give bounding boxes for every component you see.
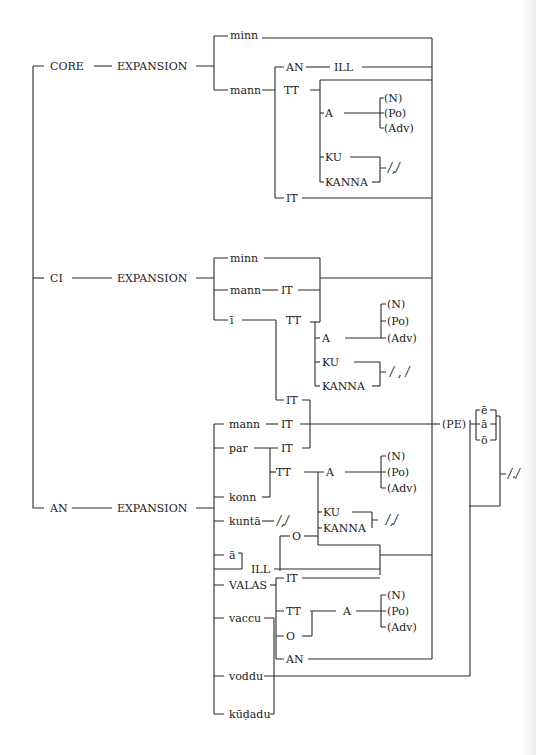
an-expansion-label: EXPANSION (117, 502, 188, 515)
an-konn: konn (229, 491, 256, 504)
root-spine (33, 66, 44, 508)
final-e: ē (481, 404, 488, 417)
syntax-tree-diagram: CORE EXPANSION minn mann AN ILL TT A (N)… (0, 0, 536, 755)
an-n2: (N) (387, 589, 405, 602)
an-comma2: /,/ (385, 513, 400, 527)
ci-adv: (Adv) (387, 332, 417, 345)
an-tt2: TT (286, 605, 302, 618)
an-tt: TT (276, 466, 292, 479)
an-ill: ILL (251, 563, 271, 576)
core-po: (Po) (384, 107, 406, 120)
core-it: IT (286, 192, 298, 205)
core-comma: /,/ (387, 161, 402, 175)
an-a: A (325, 466, 335, 479)
an-section: AN EXPANSION mann IT par IT TT A (N) (Po… (49, 400, 470, 721)
ci-a: A (321, 332, 331, 345)
page-edge-shadow (522, 0, 536, 755)
core-expansion-label: EXPANSION (117, 60, 188, 73)
an-ku: KU (323, 506, 340, 519)
an-adv: (Adv) (387, 482, 417, 495)
an-po2: (Po) (387, 605, 409, 618)
an-it2: IT (281, 442, 293, 455)
core-tt: TT (284, 84, 300, 97)
ci-tt: TT (286, 314, 302, 327)
ci-po: (Po) (387, 315, 409, 328)
an-a2: A (342, 605, 352, 618)
core-section: CORE EXPANSION minn mann AN ILL TT A (N)… (50, 29, 432, 205)
an-vaccu: vaccu (228, 612, 261, 625)
final-section: (PE) ē ā ō /./ (432, 38, 522, 659)
ci-mann: mann (230, 284, 261, 297)
core-label: CORE (50, 60, 84, 73)
an-voddu: voddu (228, 670, 263, 683)
ci-expansion-label: EXPANSION (117, 272, 188, 285)
an-a-long: ā (229, 549, 236, 562)
final-pe: (PE) (442, 418, 466, 431)
an-o1: O (292, 530, 301, 543)
an-po: (Po) (387, 466, 409, 479)
an-adv2: (Adv) (387, 621, 417, 634)
core-ill: ILL (334, 61, 354, 74)
an-it3: IT (286, 572, 298, 585)
core-n: (N) (384, 92, 402, 105)
an-mann: mann (229, 418, 260, 431)
core-an: AN (285, 61, 304, 74)
an-it1: IT (281, 418, 293, 431)
final-a: ā (481, 418, 488, 431)
ci-comma: / , / (389, 365, 411, 379)
ci-it1: IT (281, 284, 293, 297)
core-mann: mann (230, 84, 261, 97)
an-kunta: kuntā (229, 515, 261, 528)
core-a: A (324, 107, 334, 120)
ci-kanna: KANNA (322, 380, 366, 393)
ci-section: CI EXPANSION minn mann IT ī TT A (N) (Po… (50, 252, 432, 407)
core-adv: (Adv) (384, 122, 414, 135)
an-n: (N) (387, 450, 405, 463)
an-o2: O (286, 630, 295, 643)
an-an: AN (285, 653, 304, 666)
ci-n: (N) (387, 298, 405, 311)
an-kanna: KANNA (323, 522, 367, 535)
an-par: par (229, 442, 249, 455)
an-comma1: /,/ (276, 514, 291, 528)
core-ku: KU (325, 151, 342, 164)
ci-minn: minn (230, 252, 258, 265)
ci-i: ī (229, 314, 234, 327)
final-o: ō (481, 434, 488, 447)
ci-it2: IT (286, 394, 298, 407)
ci-ku: KU (322, 356, 339, 369)
an-label: AN (49, 502, 68, 515)
an-valas: VALAS (228, 579, 267, 592)
core-minn: minn (230, 29, 258, 42)
ci-label: CI (50, 272, 63, 285)
an-kudadu: kūḍadu (229, 708, 270, 721)
core-kanna: KANNA (325, 176, 369, 189)
final-period: /./ (507, 467, 522, 481)
